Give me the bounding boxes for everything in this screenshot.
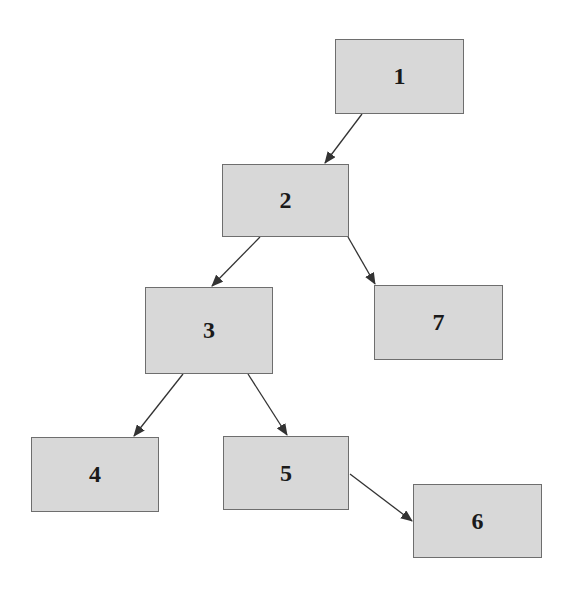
node-label: 4	[89, 461, 101, 488]
node-5: 5	[223, 436, 349, 510]
node-label: 7	[433, 309, 445, 336]
node-label: 1	[394, 63, 406, 90]
edge-arrow-5-6	[350, 474, 412, 521]
node-label: 5	[280, 460, 292, 487]
node-6: 6	[413, 484, 542, 558]
edge-arrow-2-3	[212, 237, 260, 286]
node-label: 3	[203, 317, 215, 344]
node-4: 4	[31, 437, 159, 512]
tree-diagram: 1 2 3 7 4 5 6	[0, 0, 566, 592]
node-3: 3	[145, 287, 273, 374]
edge-arrow-1-2	[325, 114, 362, 163]
node-7: 7	[374, 285, 503, 360]
edge-arrow-3-5	[248, 374, 287, 435]
node-label: 6	[472, 508, 484, 535]
node-label: 2	[280, 187, 292, 214]
node-2: 2	[222, 164, 349, 237]
edge-arrow-2-7	[348, 237, 375, 284]
edge-arrow-3-4	[134, 374, 183, 436]
node-1: 1	[335, 39, 464, 114]
